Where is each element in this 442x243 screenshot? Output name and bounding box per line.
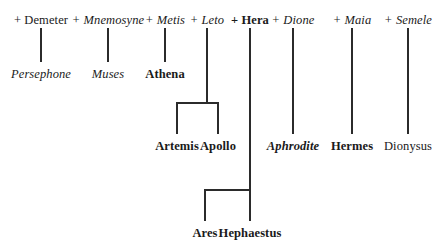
connector-leto-drop — [206, 28, 208, 103]
connector-artemis-drop — [176, 102, 178, 134]
child-hermes: Hermes — [331, 140, 373, 153]
connector-mnemosyne-muses — [107, 28, 109, 62]
child-dionysus: Dionysus — [384, 140, 432, 153]
connector-demeter-persephone — [40, 28, 42, 62]
connector-hera-crossbar — [204, 189, 251, 191]
connector-ares-drop — [204, 189, 206, 221]
consort-leto: + Leto — [190, 14, 224, 27]
consort-dione: + Dione — [272, 14, 315, 27]
child-aphrodite: Aphrodite — [267, 140, 319, 153]
consort-hera: + Hera — [231, 14, 269, 27]
child-persephone: Persephone — [11, 68, 71, 81]
child-athena: Athena — [145, 68, 185, 81]
consort-semele: + Semele — [384, 14, 432, 27]
child-hephaestus: Hephaestus — [219, 227, 282, 240]
connector-semele-dionysus — [407, 28, 409, 134]
consort-mnemosyne: + Mnemosyne — [72, 14, 144, 27]
connector-apollo-drop — [217, 102, 219, 134]
connector-metis-athena — [164, 28, 166, 62]
connector-leto-crossbar — [176, 102, 219, 104]
connector-dione-aphrodite — [292, 28, 294, 134]
child-artemis: Artemis — [155, 140, 199, 153]
consort-maia: + Maia — [333, 14, 372, 27]
consort-metis: + Metis — [145, 14, 185, 27]
child-ares: Ares — [192, 227, 217, 240]
child-apollo: Apollo — [200, 140, 236, 153]
connector-maia-hermes — [351, 28, 353, 134]
connector-hera-drop — [249, 28, 251, 190]
connector-hephaestus-drop — [249, 189, 251, 221]
family-tree-diagram: + Demeter + Mnemosyne + Metis + Leto + H… — [0, 0, 442, 243]
consort-demeter: + Demeter — [14, 14, 68, 27]
child-muses: Muses — [92, 68, 124, 81]
